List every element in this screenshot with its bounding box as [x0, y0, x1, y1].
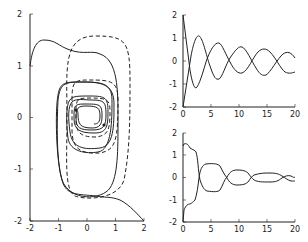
tr-x-label: 20: [290, 110, 300, 119]
left-ticks: [30, 14, 144, 221]
tr-y-label: 1: [172, 34, 177, 43]
br-x-label: 20: [290, 225, 300, 234]
left-x-label: -1: [55, 224, 63, 233]
br-x-label: 10: [234, 225, 244, 234]
tr-y-label: -1: [169, 80, 177, 89]
tr-x-label: 15: [262, 110, 272, 119]
figure: 2 1 0 -1 -2 -2 -1 0 1 2: [0, 0, 308, 242]
left-x-label: 0: [84, 224, 89, 233]
left-y-label: -1: [14, 165, 22, 174]
left-x-label: -2: [26, 224, 34, 233]
tr-x-label: 10: [234, 110, 244, 119]
tr-y-label: 2: [172, 11, 177, 20]
phase-portrait-chart: 2 1 0 -1 -2 -2 -1 0 1 2: [14, 10, 147, 233]
tr-y-label: -2: [169, 103, 177, 112]
tr-x-label: 5: [208, 110, 213, 119]
br-y-label: -2: [169, 218, 177, 227]
tr-ticks: [183, 15, 295, 107]
br-y-label: -1: [169, 196, 177, 205]
left-y-label: 1: [17, 62, 22, 71]
series-x-t: [183, 36, 295, 107]
br-y-label: 0: [172, 173, 177, 182]
series-y-t: [183, 15, 295, 88]
left-y-label: 0: [17, 113, 22, 122]
trajectory-a: [30, 40, 118, 197]
br-y-label: 1: [172, 151, 177, 160]
br-x-label: 15: [262, 225, 272, 234]
endpoint-marker: [74, 108, 77, 111]
left-x-label: 1: [113, 224, 118, 233]
br-x-label: 0: [180, 225, 185, 234]
br-y-label: 2: [172, 129, 177, 138]
tr-x-label: 0: [180, 110, 185, 119]
tr-y-label: 0: [172, 57, 177, 66]
time-series-top-chart: 2 1 0 -1 -2 0 5 10 15 20: [169, 11, 300, 119]
series-v-t: [183, 164, 295, 222]
br-x-label: 5: [208, 225, 213, 234]
time-series-bottom-chart: 2 1 0 -1 -2 0 5 10 15 20: [169, 129, 300, 234]
left-x-label: 2: [141, 224, 146, 233]
endpoint-marker: [102, 123, 105, 126]
left-y-label: -2: [14, 217, 22, 226]
left-y-label: 2: [17, 10, 22, 19]
